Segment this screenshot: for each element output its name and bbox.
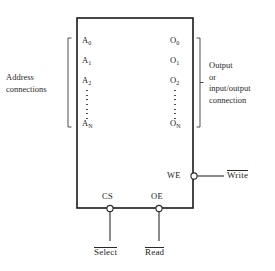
output-caption-line-2: or xyxy=(209,72,275,84)
output-pin-n: ON xyxy=(170,119,180,128)
output-pin-2: O2 xyxy=(170,76,179,85)
chip-select-pin xyxy=(107,205,113,241)
diagram-canvas: A0 A1 A2 AN O0 O1 O2 ON Address connecti… xyxy=(0,0,275,271)
write-label-overbar: Write xyxy=(227,170,248,180)
chip-select-inversion-bubble xyxy=(107,205,113,211)
address-pin-n: AN xyxy=(82,119,92,128)
output-enable-inner-label: OE xyxy=(151,192,163,201)
address-caption-line-1: Address xyxy=(6,72,66,84)
output-ellipsis-dots xyxy=(173,90,177,119)
output-enable-pin xyxy=(156,205,162,241)
read-external-label: Read xyxy=(145,247,164,257)
output-bracket xyxy=(197,38,204,127)
address-connections-caption: Address connections xyxy=(6,72,66,95)
address-ellipsis-dots xyxy=(85,90,89,119)
output-caption-line-3: input/output xyxy=(209,83,275,95)
write-enable-pin xyxy=(191,173,224,179)
address-caption-line-2: connections xyxy=(6,84,66,96)
diagram-vector-layer xyxy=(0,0,275,271)
output-connections-caption: Output or input/output connection xyxy=(209,60,275,106)
chip-select-inner-label: CS xyxy=(102,192,113,201)
address-bracket xyxy=(68,38,72,127)
select-external-label: Select xyxy=(94,247,117,257)
output-caption-line-4: connection xyxy=(209,95,275,107)
write-enable-inversion-bubble xyxy=(191,173,197,179)
write-enable-inner-label: WE xyxy=(167,171,181,180)
address-pin-2: A2 xyxy=(82,76,91,85)
address-pin-1: A1 xyxy=(82,56,91,65)
output-caption-line-1: Output xyxy=(209,60,275,72)
address-pin-0: A0 xyxy=(82,36,91,45)
select-label-overbar: Select xyxy=(94,247,117,257)
read-label-overbar: Read xyxy=(145,247,164,257)
output-enable-inversion-bubble xyxy=(156,205,162,211)
write-external-label: Write xyxy=(227,170,248,180)
output-pin-1: O1 xyxy=(170,56,179,65)
output-pin-0: O0 xyxy=(170,36,179,45)
